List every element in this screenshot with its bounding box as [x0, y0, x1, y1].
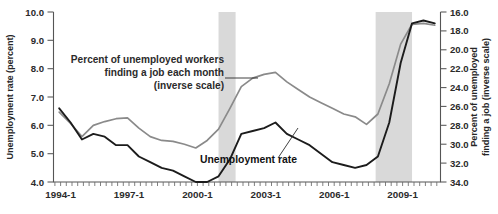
left-tick-8: 8.0 [31, 63, 44, 74]
right-tick-16: 16.0 [450, 7, 469, 18]
right-tick-22: 22.0 [450, 63, 469, 74]
x-tick-1997: 1997-1 [114, 189, 145, 200]
right-tick-32: 32.0 [450, 158, 469, 169]
left-tick-6: 6.0 [31, 120, 44, 131]
left-tick-9: 9.0 [31, 35, 44, 46]
right-axis-ticks [441, 12, 447, 182]
y2-axis-title-line2: finding a job (inverse scale) [481, 38, 491, 156]
left-tick-10: 10.0 [25, 7, 44, 18]
x-tick-2009: 2009-1 [387, 189, 418, 200]
left-axis-ticks [48, 12, 54, 182]
unemployment-chart: 4.0 5.0 6.0 7.0 8.0 9.0 10.0 16.0 18.0 2… [0, 0, 498, 214]
unemployment-rate-label: Unemployment rate [200, 154, 297, 165]
job-finding-label-line2: finding a job each month [105, 67, 224, 78]
right-tick-24: 24.0 [450, 82, 469, 93]
right-tick-labels: 16.0 18.0 20.0 22.0 24.0 26.0 28.0 30.0 … [450, 7, 469, 188]
job-finding-annotation: Percent of unemployed workers finding a … [71, 54, 225, 91]
y-axis-title: Unemployment rate (percent) [5, 34, 15, 159]
job-finding-label-line1: Percent of unemployed workers [71, 54, 225, 65]
right-tick-26: 26.0 [450, 101, 469, 112]
left-tick-5: 5.0 [31, 148, 44, 159]
left-tick-7: 7.0 [31, 92, 44, 103]
x-tick-2003: 2003-1 [251, 189, 282, 200]
x-tick-labels: 1994-1 1997-1 2000-1 2003-1 2006-1 2009-… [45, 189, 418, 200]
unemployment-annotation: Unemployment rate [200, 154, 297, 165]
right-tick-18: 18.0 [450, 25, 469, 36]
left-tick-labels: 4.0 5.0 6.0 7.0 8.0 9.0 10.0 [25, 7, 44, 188]
right-tick-20: 20.0 [450, 44, 469, 55]
y2-axis-title-line1: Percent of unemployed [469, 47, 479, 147]
left-tick-4: 4.0 [31, 177, 44, 188]
right-tick-30: 30.0 [450, 139, 469, 150]
chart-svg: 4.0 5.0 6.0 7.0 8.0 9.0 10.0 16.0 18.0 2… [0, 0, 498, 214]
right-tick-28: 28.0 [450, 120, 469, 131]
x-tick-2006: 2006-1 [319, 189, 350, 200]
job-finding-label-line3: (inverse scale) [154, 80, 224, 91]
x-tick-2000: 2000-1 [182, 189, 213, 200]
x-tick-1994: 1994-1 [45, 189, 76, 200]
x-axis-ticks [55, 182, 437, 186]
right-tick-34: 34.0 [450, 177, 469, 188]
